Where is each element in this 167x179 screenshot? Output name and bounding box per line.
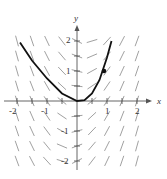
slope-segment [58, 82, 66, 89]
slope-segment [136, 141, 139, 152]
slope-segment [15, 141, 19, 151]
y-axis [75, 25, 80, 170]
slope-segment [88, 112, 96, 119]
slope-segment [59, 37, 66, 46]
slope-segment [30, 66, 34, 76]
slope-segment [88, 142, 95, 150]
svg-text:2: 2 [135, 106, 140, 116]
slope-segment [135, 51, 139, 61]
slope-segment [136, 156, 139, 167]
svg-text:1: 1 [66, 66, 71, 76]
slope-segment [44, 142, 51, 151]
slope-segment [135, 36, 139, 46]
svg-text:1: 1 [105, 106, 110, 116]
svg-text:-2: -2 [9, 106, 17, 116]
slope-segment [135, 66, 139, 76]
direction-field-plot: x y -2 -1 1 2 2 1 -1 -2 [0, 0, 167, 179]
slope-segment [89, 157, 96, 166]
slope-segment [30, 36, 34, 46]
slope-segment [43, 157, 50, 165]
slope-segment [135, 126, 138, 137]
slope-segment [120, 156, 124, 166]
slope-segment [135, 81, 138, 91]
slope-segment [44, 81, 50, 91]
svg-text:-1: -1 [41, 106, 49, 116]
slope-segment [30, 81, 34, 91]
slope-segment [120, 51, 125, 61]
svg-text:-1: -1 [61, 126, 69, 136]
slope-segment [57, 113, 66, 119]
slope-segment [15, 156, 19, 166]
slope-segment [103, 37, 110, 45]
slope-segment [104, 81, 110, 90]
initial-point-marker [102, 69, 107, 74]
slope-segment [45, 36, 50, 46]
slope-segment [105, 141, 110, 151]
slope-segment [87, 68, 97, 73]
slope-segment [87, 39, 98, 42]
y-axis-label: y [73, 13, 78, 23]
slope-segment [16, 36, 19, 47]
slope-segment [57, 144, 67, 148]
slope-segment [30, 141, 35, 151]
slope-segment [88, 127, 96, 135]
slope-segment [15, 66, 18, 77]
x-tick-labels: -2 -1 1 2 [9, 106, 140, 116]
slope-segment [105, 156, 110, 166]
slope-segment [87, 54, 97, 58]
slope-segment [30, 111, 34, 121]
slope-segment [120, 111, 124, 121]
slope-segment [104, 126, 109, 136]
slope-segment [15, 126, 19, 136]
x-axis-label: x [156, 96, 161, 106]
slope-segment [120, 141, 124, 151]
slope-segment [120, 66, 125, 76]
slope-segment [120, 81, 124, 91]
slope-segment [58, 52, 65, 60]
slope-segment [29, 156, 34, 166]
slope-segment [45, 51, 50, 61]
slope-segment [30, 126, 35, 136]
slope-segment [44, 127, 51, 136]
slope-segment [119, 36, 124, 46]
slope-segment [58, 67, 66, 75]
slope-segment [15, 81, 18, 92]
svg-text:2: 2 [66, 35, 71, 45]
slope-segment [44, 66, 49, 76]
slope-segment [16, 51, 19, 62]
slope-segment [120, 126, 124, 136]
svg-text:-2: -2 [61, 156, 69, 166]
